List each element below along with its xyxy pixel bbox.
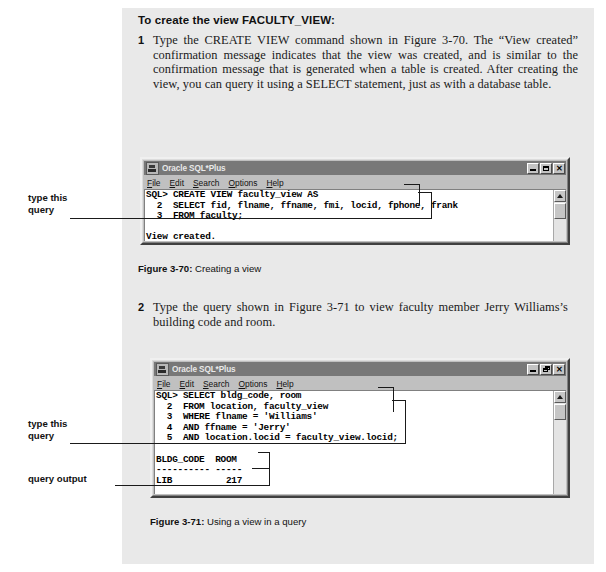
menu-edit[interactable]: Edit — [170, 178, 184, 188]
window-2-title: Oracle SQL*Plus — [172, 365, 527, 374]
menu-file-rest: ile — [152, 178, 160, 188]
figure-3-70-label: Figure 3-70: — [138, 263, 192, 274]
window-1-title: Oracle SQL*Plus — [162, 164, 527, 173]
minimize-button[interactable] — [527, 163, 539, 174]
window-2-titlebar[interactable]: Oracle SQL*Plus ✕ — [154, 362, 566, 376]
menu-help[interactable]: Help — [276, 379, 293, 389]
window-2-controls: ✕ — [527, 364, 565, 375]
scroll-thumb[interactable] — [554, 203, 566, 219]
step-1: 1 Type the CREATE VIEW command shown in … — [138, 33, 578, 91]
annotation-type-this-query-1: type this query — [28, 192, 118, 215]
close-button[interactable]: ✕ — [553, 364, 565, 375]
menu-file[interactable]: File — [157, 379, 171, 389]
oracle-sqlplus-icon — [146, 162, 159, 175]
callout-leader-1 — [70, 218, 432, 219]
menu-options-rest: ptions — [235, 178, 257, 188]
menu-file-rest: ile — [162, 379, 170, 389]
menu-search-rest: earch — [209, 379, 230, 389]
step-1-text: Type the CREATE VIEW command shown in Fi… — [153, 33, 578, 91]
window-1-console-text: SQL> CREATE VIEW faculty_view AS 2 SELEC… — [146, 190, 551, 241]
step-2: 2 Type the query shown in Figure 3-71 to… — [138, 300, 568, 329]
restore-button[interactable] — [540, 364, 552, 375]
menu-edit-rest: dit — [175, 178, 184, 188]
scroll-thumb[interactable] — [554, 404, 566, 420]
oracle-sqlplus-icon — [156, 363, 169, 376]
callout-leader-2 — [70, 443, 406, 444]
window-1-menubar[interactable]: File Edit Search Options Help — [144, 176, 566, 189]
menu-search[interactable]: Search — [203, 379, 230, 389]
window-1-controls: ✕ — [527, 163, 565, 174]
menu-file[interactable]: File — [147, 178, 161, 188]
menu-options[interactable]: Options — [229, 178, 258, 188]
menu-options-rest: ptions — [245, 379, 267, 389]
step-2-text: Type the query shown in Figure 3-71 to v… — [153, 300, 568, 329]
menu-help[interactable]: Help — [266, 178, 283, 188]
window-2-menubar[interactable]: File Edit Search Options Help — [154, 377, 566, 390]
menu-edit-rest: dit — [185, 379, 194, 389]
figure-3-70-caption: Figure 3-70: Creating a view — [138, 263, 261, 274]
callout-bracket-1b — [418, 192, 432, 219]
annotation-type-this-query-2: type this query — [28, 418, 118, 441]
oracle-sqlplus-window-1[interactable]: Oracle SQL*Plus ✕ File Edit Search Optio… — [140, 157, 570, 245]
figure-3-71-caption: Figure 3-71: Using a view in a query — [150, 516, 306, 527]
content-column: To create the view FACULTY_VIEW: 1 Type … — [138, 14, 578, 95]
scroll-up-arrow-icon[interactable] — [554, 391, 566, 403]
close-button[interactable]: ✕ — [553, 163, 565, 174]
window-1-console[interactable]: SQL> CREATE VIEW faculty_view AS 2 SELEC… — [144, 189, 566, 241]
step-1-number: 1 — [138, 33, 153, 48]
oracle-sqlplus-window-2[interactable]: Oracle SQL*Plus ✕ File Edit Search Optio… — [150, 358, 570, 498]
window-2-scrollbar[interactable] — [553, 391, 566, 494]
figure-3-71-label: Figure 3-71: — [150, 516, 204, 527]
window-2-console-text: SQL> SELECT bldg_code, room 2 FROM locat… — [156, 391, 551, 486]
minimize-button[interactable] — [527, 364, 539, 375]
menu-options[interactable]: Options — [239, 379, 268, 389]
callout-bracket-3b — [252, 468, 270, 486]
maximize-button[interactable] — [540, 163, 552, 174]
page-root: To create the view FACULTY_VIEW: 1 Type … — [0, 0, 606, 572]
step-2-number: 2 — [138, 300, 153, 315]
annotation-query-output: query output — [28, 473, 128, 485]
window-1-scrollbar[interactable] — [553, 190, 566, 241]
menu-edit[interactable]: Edit — [180, 379, 194, 389]
menu-help-rest: elp — [272, 178, 283, 188]
callout-bracket-2b — [392, 400, 406, 444]
menu-search[interactable]: Search — [193, 178, 220, 188]
window-1-titlebar[interactable]: Oracle SQL*Plus ✕ — [144, 161, 566, 175]
callout-leader-3 — [115, 485, 270, 486]
page-title: To create the view FACULTY_VIEW: — [138, 14, 578, 26]
figure-3-71-text: Using a view in a query — [207, 516, 306, 527]
window-2-console[interactable]: SQL> SELECT bldg_code, room 2 FROM locat… — [154, 390, 566, 494]
scroll-up-arrow-icon[interactable] — [554, 190, 566, 202]
figure-3-70-text: Creating a view — [195, 263, 261, 274]
menu-help-rest: elp — [282, 379, 293, 389]
menu-search-rest: earch — [199, 178, 220, 188]
